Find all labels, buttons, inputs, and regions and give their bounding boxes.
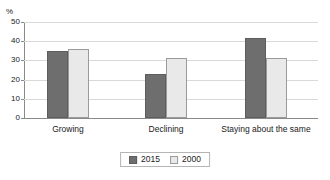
y-tick-mark <box>21 60 24 61</box>
category-label-staying-about-the-same: Staying about the same <box>217 124 315 134</box>
y-tick-mark <box>21 80 24 81</box>
y-tick-10: 10 <box>0 95 20 103</box>
y-tick-0: 0 <box>0 114 20 122</box>
category-label-declining: Declining <box>117 124 215 134</box>
legend-swatch-2000 <box>170 156 178 164</box>
bar-chart-figure: % 01020304050 GrowingDecliningStaying ab… <box>0 0 330 180</box>
y-axis-unit-label: % <box>6 7 13 16</box>
y-tick-mark <box>21 41 24 42</box>
bar-2015-growing <box>47 51 68 118</box>
y-tick-mark <box>21 118 24 119</box>
y-tick-50: 50 <box>0 18 20 26</box>
gridline <box>24 22 318 23</box>
bar-2015-declining <box>145 74 166 118</box>
bar-2000-declining <box>166 58 187 118</box>
legend-label-2015: 2015 <box>141 155 160 164</box>
legend-swatch-2015 <box>129 156 137 164</box>
y-tick-40: 40 <box>0 37 20 45</box>
legend-item-2000[interactable]: 2000 <box>170 155 201 164</box>
bar-2015-staying-about-the-same <box>245 38 266 118</box>
x-axis-line <box>24 118 318 119</box>
bar-2000-growing <box>68 49 89 118</box>
y-tick-mark <box>21 22 24 23</box>
cropped-header-text <box>0 0 330 8</box>
y-tick-20: 20 <box>0 76 20 84</box>
legend-label-2000: 2000 <box>182 155 201 164</box>
bar-2000-staying-about-the-same <box>266 58 287 118</box>
y-tick-30: 30 <box>0 56 20 64</box>
chart-legend: 20152000 <box>120 152 210 167</box>
legend-item-2015[interactable]: 2015 <box>129 155 160 164</box>
category-label-growing: Growing <box>19 124 117 134</box>
gridline <box>24 41 318 42</box>
y-tick-mark <box>21 99 24 100</box>
